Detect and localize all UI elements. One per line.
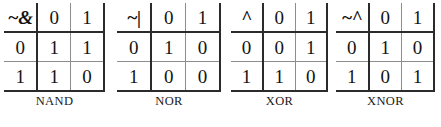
cell-r1c0: 1: [37, 62, 70, 92]
table-row: 1 1 0: [4, 62, 104, 92]
table-header-row: ~^ 0 1: [336, 3, 434, 32]
truth-table-block-xor: ^ 0 1 0 0 1 1 1 0 XOR: [231, 3, 328, 109]
column-header-0: 0: [151, 3, 185, 32]
truth-table-xnor: ~^ 0 1 0 1 0 1 0 1: [336, 3, 435, 92]
cell-r0c1: 0: [401, 32, 434, 62]
table-row: 1 0 0: [117, 62, 220, 92]
cell-r0c0: 1: [151, 32, 185, 62]
column-header-0: 0: [37, 3, 70, 32]
table-row: 0 1 1: [4, 32, 104, 62]
table-header-row: ~& 0 1: [4, 3, 104, 32]
table-caption-nand: NAND: [4, 92, 105, 109]
table-row: 1 0 1: [336, 62, 434, 92]
cell-r0c1: 1: [295, 32, 327, 62]
row-header-1: 1: [336, 62, 369, 92]
table-caption-xor: XOR: [231, 92, 328, 109]
truth-table-nor: ~| 0 1 0 1 0 1 0 0: [117, 3, 221, 92]
truth-table-block-xnor: ~^ 0 1 0 1 0 1 0 1 XNOR: [336, 3, 435, 109]
table-header-row: ~| 0 1: [117, 3, 220, 32]
cell-r1c1: 0: [71, 62, 104, 92]
column-header-1: 1: [295, 3, 327, 32]
cell-r0c0: 1: [369, 32, 402, 62]
column-header-0: 0: [369, 3, 402, 32]
column-header-1: 1: [71, 3, 104, 32]
table-row: 0 1 0: [336, 32, 434, 62]
operator-symbol-cell: ~^: [336, 3, 369, 32]
column-header-0: 0: [263, 3, 295, 32]
row-header-1: 1: [117, 62, 151, 92]
cell-r1c1: 0: [186, 62, 220, 92]
cell-r1c1: 0: [295, 62, 327, 92]
column-header-1: 1: [401, 3, 434, 32]
operator-symbol-cell: ~|: [117, 3, 151, 32]
table-caption-xnor: XNOR: [336, 92, 435, 109]
cell-r0c0: 0: [263, 32, 295, 62]
cell-r1c0: 0: [151, 62, 185, 92]
cell-r0c0: 1: [37, 32, 70, 62]
truth-tables-row: ~& 0 1 0 1 1 1 1 0 NAND: [0, 0, 441, 109]
table-header-row: ^ 0 1: [231, 3, 327, 32]
table-caption-nor: NOR: [117, 92, 221, 109]
column-header-1: 1: [186, 3, 220, 32]
table-row: 0 0 1: [231, 32, 327, 62]
operator-symbol-cell: ~&: [4, 3, 37, 32]
cell-r0c1: 1: [71, 32, 104, 62]
table-row: 1 1 0: [231, 62, 327, 92]
truth-table-nand: ~& 0 1 0 1 1 1 1 0: [4, 3, 105, 92]
table-row: 0 1 0: [117, 32, 220, 62]
cell-r0c1: 0: [186, 32, 220, 62]
row-header-0: 0: [231, 32, 263, 62]
row-header-0: 0: [4, 32, 37, 62]
row-header-0: 0: [336, 32, 369, 62]
row-header-1: 1: [4, 62, 37, 92]
row-header-0: 0: [117, 32, 151, 62]
row-header-1: 1: [231, 62, 263, 92]
cell-r1c0: 0: [369, 62, 402, 92]
cell-r1c0: 1: [263, 62, 295, 92]
truth-table-xor: ^ 0 1 0 0 1 1 1 0: [231, 3, 328, 92]
truth-table-block-nor: ~| 0 1 0 1 0 1 0 0 NOR: [117, 3, 221, 109]
truth-table-block-nand: ~& 0 1 0 1 1 1 1 0 NAND: [4, 3, 105, 109]
operator-symbol-cell: ^: [231, 3, 263, 32]
cell-r1c1: 1: [401, 62, 434, 92]
